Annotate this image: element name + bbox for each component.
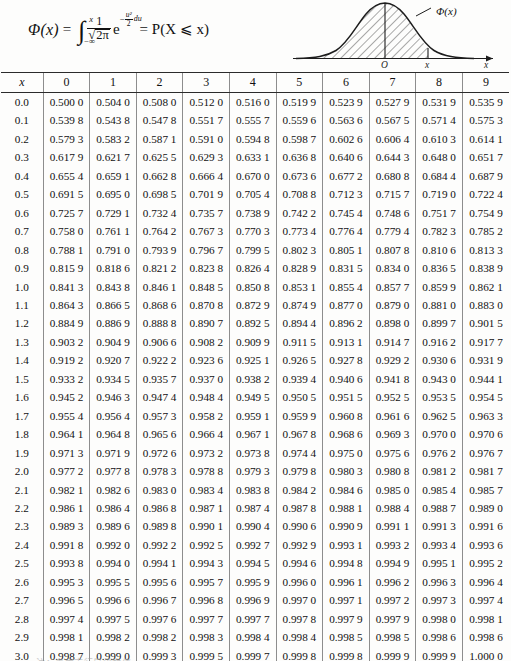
table-cell: 0.773 4 <box>276 222 323 240</box>
table-cell: 0.719 0 <box>416 185 463 203</box>
table-cell: 0.998 3 <box>183 628 230 646</box>
table-cell: 0.614 1 <box>462 130 509 148</box>
table-cell: 0.935 7 <box>136 370 183 388</box>
table-cell: 0.673 6 <box>276 167 323 185</box>
table-cell: 0.594 8 <box>229 130 276 148</box>
table-cell: 0.929 2 <box>369 351 416 369</box>
formula-rhs: = P(X ⩽ x) <box>140 22 209 37</box>
fraction-denominator-wrap: 2π <box>87 29 111 43</box>
table-cell: 0.877 0 <box>323 296 370 314</box>
table-cell: 0.948 4 <box>183 388 230 406</box>
table-row: 1.80.964 10.964 80.965 60.966 40.967 10.… <box>1 425 509 443</box>
table-row: 1.30.903 20.904 90.906 60.908 20.909 90.… <box>1 333 509 351</box>
row-header-x: 1.0 <box>1 278 43 296</box>
table-cell: 0.997 0 <box>276 591 323 609</box>
table-cell: 0.954 5 <box>462 388 509 406</box>
table-cell: 0.504 0 <box>90 93 137 112</box>
table-cell: 0.767 3 <box>183 222 230 240</box>
corner-header-x: x <box>1 73 43 93</box>
table-cell: 0.989 6 <box>90 517 137 535</box>
table-cell: 0.985 7 <box>462 481 509 499</box>
table-row: 2.80.997 40.997 50.997 60.997 70.997 70.… <box>1 610 509 628</box>
table-cell: 0.563 6 <box>323 111 370 129</box>
table-body: 0.00.500 00.504 00.508 00.512 00.516 00.… <box>1 93 509 661</box>
row-header-x: 1.7 <box>1 407 43 425</box>
table-cell: 0.998 5 <box>369 628 416 646</box>
column-header-4: 4 <box>229 73 276 93</box>
table-cell: 0.644 3 <box>369 148 416 166</box>
table-cell: 0.583 2 <box>90 130 137 148</box>
table-cell: 0.997 9 <box>369 610 416 628</box>
row-header-x: 2.7 <box>1 591 43 609</box>
column-header-8: 8 <box>416 73 463 93</box>
table-cell: 0.999 5 <box>183 647 230 661</box>
table-row: 0.30.617 90.621 70.625 50.629 30.633 10.… <box>1 148 509 166</box>
column-header-0: 0 <box>43 73 90 93</box>
table-cell: 0.914 7 <box>369 333 416 351</box>
table-cell: 0.965 6 <box>136 425 183 443</box>
table-cell: 0.555 7 <box>229 111 276 129</box>
table-row: 2.40.991 80.992 00.992 20.992 50.992 70.… <box>1 536 509 554</box>
table-cell: 0.957 3 <box>136 407 183 425</box>
table-cell: 0.571 4 <box>416 111 463 129</box>
origin-label: O <box>381 60 388 70</box>
table-cell: 0.807 8 <box>369 241 416 259</box>
table-cell: 0.931 9 <box>462 351 509 369</box>
table-cell: 0.843 8 <box>90 278 137 296</box>
differential-du: du <box>134 15 142 23</box>
table-row: 1.10.864 30.866 50.868 60.870 80.872 90.… <box>1 296 509 314</box>
table-cell: 0.967 8 <box>276 425 323 443</box>
table-cell: 0.996 9 <box>229 591 276 609</box>
table-cell: 0.738 9 <box>229 204 276 222</box>
table-cell: 0.732 4 <box>136 204 183 222</box>
table-cell: 0.992 9 <box>276 536 323 554</box>
table-cell: 0.691 5 <box>43 185 90 203</box>
table-cell: 0.906 6 <box>136 333 183 351</box>
table-cell: 0.982 1 <box>43 481 90 499</box>
column-header-2: 2 <box>136 73 183 93</box>
table-cell: 0.848 5 <box>183 278 230 296</box>
table-cell: 0.996 3 <box>416 573 463 591</box>
normal-curve-figure: O x x Φ(x) <box>288 0 503 70</box>
table-cell: 0.990 4 <box>229 517 276 535</box>
table-cell: 0.985 0 <box>369 481 416 499</box>
table-cell: 0.500 0 <box>43 93 90 112</box>
table-cell: 0.903 2 <box>43 333 90 351</box>
table-cell: 0.996 2 <box>369 573 416 591</box>
table-cell: 0.512 0 <box>183 93 230 112</box>
table-cell: 0.959 9 <box>276 407 323 425</box>
row-header-x: 0.6 <box>1 204 43 222</box>
table-cell: 0.884 9 <box>43 314 90 332</box>
radical-bar <box>95 29 110 30</box>
table-cell: 0.979 3 <box>229 462 276 480</box>
table-cell: 0.923 6 <box>183 351 230 369</box>
table-cell: 0.909 9 <box>229 333 276 351</box>
row-header-x: 2.9 <box>1 628 43 646</box>
table-cell: 0.986 8 <box>136 499 183 517</box>
table-cell: 0.575 3 <box>462 111 509 129</box>
table-cell: 0.969 3 <box>369 425 416 443</box>
table-cell: 0.996 8 <box>183 591 230 609</box>
table-cell: 0.996 4 <box>462 573 509 591</box>
table-cell: 0.989 3 <box>43 517 90 535</box>
table-cell: 0.996 6 <box>90 591 137 609</box>
fraction-numerator: 1 <box>94 15 104 28</box>
table-cell: 0.621 7 <box>90 148 137 166</box>
table-cell: 0.748 6 <box>369 204 416 222</box>
table-row: 0.60.725 70.729 10.732 40.735 70.738 90.… <box>1 204 509 222</box>
table-cell: 0.978 3 <box>136 462 183 480</box>
table-cell: 0.990 9 <box>323 517 370 535</box>
table-row: 2.60.995 30.995 50.995 60.995 70.995 90.… <box>1 573 509 591</box>
table-cell: 0.995 5 <box>90 573 137 591</box>
table-cell: 0.751 7 <box>416 204 463 222</box>
table-cell: 0.983 4 <box>183 481 230 499</box>
table-cell: 0.886 9 <box>90 314 137 332</box>
table-cell: 0.999 3 <box>136 647 183 661</box>
normal-distribution-table-page: Φ(x) = ∫ x −∞ 1 2π e − <box>0 0 511 661</box>
table-header-region: Φ(x) = ∫ x −∞ 1 2π e − <box>0 0 511 72</box>
table-cell: 0.999 9 <box>416 647 463 661</box>
table-cell: 0.980 3 <box>323 462 370 480</box>
table-cell: 0.996 5 <box>43 591 90 609</box>
table-cell: 0.987 1 <box>183 499 230 517</box>
table-cell: 0.539 8 <box>43 111 90 129</box>
